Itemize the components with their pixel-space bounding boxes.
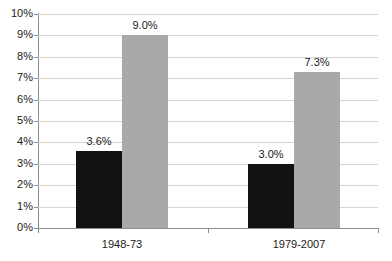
y-axis-label: 4% xyxy=(1,136,33,147)
x-axis-tick xyxy=(208,228,209,233)
plot-area xyxy=(38,14,378,228)
bar xyxy=(248,164,294,228)
bar-value-label: 7.3% xyxy=(287,57,347,68)
y-axis-label: 6% xyxy=(1,94,33,105)
bar xyxy=(76,151,122,228)
x-axis-tick xyxy=(38,228,39,233)
y-axis-label: 5% xyxy=(1,115,33,126)
y-axis-label: 0% xyxy=(1,222,33,233)
y-axis-label: 8% xyxy=(1,51,33,62)
y-axis-label: 10% xyxy=(1,8,33,19)
y-axis-label: 9% xyxy=(1,29,33,40)
y-axis-label: 3% xyxy=(1,158,33,169)
bar-value-label: 9.0% xyxy=(115,20,175,31)
y-axis-labels: 0%1%2%3%4%5%6%7%8%9%10% xyxy=(0,0,33,261)
bar-value-label: 3.6% xyxy=(69,136,129,147)
y-axis-label: 2% xyxy=(1,179,33,190)
category-label: 1979-2007 xyxy=(239,238,359,250)
bar-value-label: 3.0% xyxy=(241,149,301,160)
bar xyxy=(122,35,168,228)
category-label: 1948-73 xyxy=(62,238,182,250)
y-axis-label: 1% xyxy=(1,201,33,212)
y-axis-label: 7% xyxy=(1,72,33,83)
x-axis-tick xyxy=(378,228,379,233)
bar-chart: 0%1%2%3%4%5%6%7%8%9%10% 3.6%9.0%3.0%7.3%… xyxy=(0,0,392,261)
